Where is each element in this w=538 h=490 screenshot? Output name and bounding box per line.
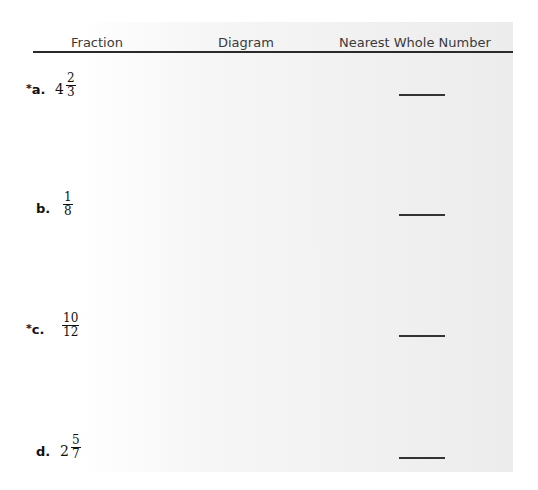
answer-blank-a[interactable] bbox=[399, 94, 445, 96]
header-rule bbox=[33, 51, 513, 53]
table-shaded-panel bbox=[76, 22, 513, 472]
mixed-whole-part: 2 bbox=[60, 443, 69, 459]
answer-blank-d[interactable] bbox=[399, 457, 445, 459]
answer-blank-c[interactable] bbox=[399, 335, 445, 337]
mixed-whole-part: 4 bbox=[55, 81, 64, 97]
header-fraction: Fraction bbox=[71, 35, 123, 50]
fraction: 10 12 bbox=[62, 312, 79, 339]
row-label: *c. bbox=[26, 322, 44, 337]
fraction: 2 3 bbox=[66, 72, 76, 99]
fraction: 5 7 bbox=[71, 434, 81, 461]
header-diagram: Diagram bbox=[218, 35, 274, 50]
header-nearest-whole-number: Nearest Whole Number bbox=[339, 35, 491, 50]
answer-blank-b[interactable] bbox=[399, 214, 445, 216]
row-label: d. bbox=[36, 444, 50, 459]
row-label: *a. bbox=[26, 82, 45, 97]
fraction: 1 8 bbox=[63, 191, 73, 218]
row-label: b. bbox=[36, 201, 50, 216]
